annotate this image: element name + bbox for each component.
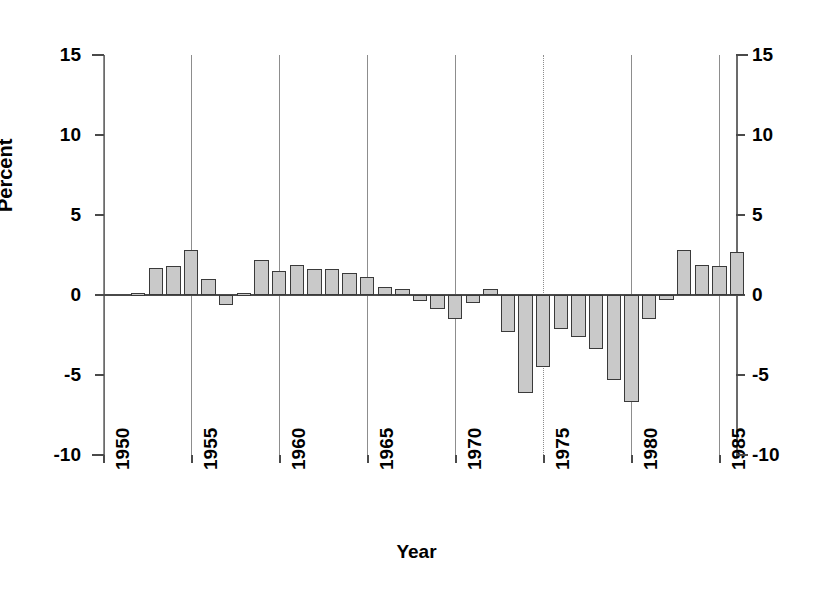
bar-1983 [677, 250, 691, 295]
bar-1966 [378, 287, 392, 295]
y-tick-label-left: -5 [64, 365, 81, 384]
bar-1967 [395, 289, 409, 295]
bar-1954 [166, 266, 180, 295]
bar-1959 [254, 260, 268, 295]
bar-1960 [272, 271, 286, 295]
bar-1965 [360, 277, 374, 295]
bar-chart: 19501955196019651970197519801985 1515101… [0, 0, 833, 593]
bar-1953 [149, 268, 163, 295]
bar-1964 [342, 273, 356, 295]
bar-1978 [589, 295, 603, 349]
bar-1972 [483, 289, 497, 295]
bars-layer [103, 55, 737, 455]
bar-1963 [325, 269, 339, 295]
x-tick-1975 [543, 455, 545, 463]
y-tick-label-left: 0 [70, 285, 81, 304]
bar-1985 [712, 266, 726, 295]
y-tick-label-right: 0 [752, 285, 763, 304]
x-tick-1965 [367, 455, 369, 463]
x-tick-1970 [455, 455, 457, 463]
x-tick-1980 [631, 455, 633, 463]
bar-1973 [501, 295, 515, 332]
bar-1970 [448, 295, 462, 319]
y-tick-right [736, 454, 748, 456]
bar-1971 [466, 295, 480, 303]
x-tick-1955 [191, 455, 193, 463]
y-tick-right [736, 374, 745, 376]
bar-1974 [518, 295, 532, 393]
y-tick-label-left: 5 [70, 205, 81, 224]
bar-1977 [571, 295, 585, 337]
y-tick-right [736, 134, 745, 136]
bar-1976 [554, 295, 568, 329]
x-tick-1950 [103, 455, 105, 463]
bar-1958 [237, 293, 251, 296]
y-tick-label-right: -10 [752, 445, 779, 464]
y-tick-label-left: -10 [54, 445, 81, 464]
y-tick-right [736, 54, 748, 56]
bar-1979 [607, 295, 621, 380]
y-tick-label-right: 5 [752, 205, 763, 224]
y-tick-label-right: 10 [752, 125, 773, 144]
x-tick-1985 [719, 455, 721, 463]
y-tick-label-left: 15 [60, 45, 81, 64]
y-tick-label-left: 10 [60, 125, 81, 144]
bar-1957 [219, 295, 233, 305]
bar-1968 [413, 295, 427, 301]
bar-1981 [642, 295, 656, 319]
y-tick-label-right: -5 [752, 365, 769, 384]
bar-1961 [290, 265, 304, 295]
bar-1955 [184, 250, 198, 295]
x-axis-title: Year [0, 541, 833, 563]
y-tick-label-right: 15 [752, 45, 773, 64]
bar-1980 [624, 295, 638, 402]
bar-1986 [730, 252, 744, 295]
bar-1975 [536, 295, 550, 367]
y-tick-right [736, 214, 745, 216]
bar-1956 [201, 279, 215, 295]
bar-1984 [695, 265, 709, 295]
bar-1982 [659, 295, 673, 300]
bar-1962 [307, 269, 321, 295]
x-tick-1960 [279, 455, 281, 463]
bar-1952 [131, 293, 145, 296]
bar-1969 [430, 295, 444, 309]
y-axis-title: Percent [0, 139, 17, 212]
